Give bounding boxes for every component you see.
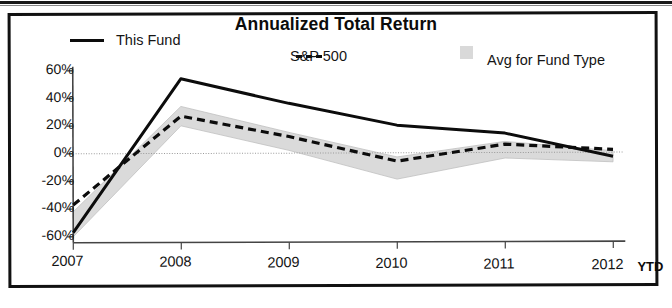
- x-axis-labels: 200720082009201020112012YTD: [8, 11, 659, 288]
- x-axis-tick-label: 2009: [267, 254, 299, 270]
- chart-screenshot: Annualized Total Return This Fund S&P 50…: [0, 0, 672, 308]
- x-axis-tick-label: 2008: [159, 253, 191, 269]
- x-axis-tick-label: 2010: [375, 254, 407, 270]
- x-axis-tick-label: 2007: [51, 253, 83, 269]
- x-axis-ytd-label: YTD: [637, 259, 663, 274]
- x-axis-tick-label: 2011: [483, 255, 514, 271]
- x-axis-tick-label: 2012: [591, 255, 623, 271]
